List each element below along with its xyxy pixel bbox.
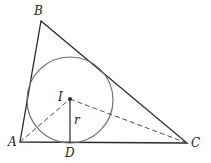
dashed-line-ci <box>70 99 187 143</box>
triangle-abc <box>20 21 187 143</box>
label-b: B <box>33 4 43 18</box>
incenter-point <box>68 97 72 101</box>
label-c: C <box>191 136 200 150</box>
incircle-diagram: B A C D I r <box>0 0 211 163</box>
label-a: A <box>7 135 17 149</box>
label-d: D <box>64 146 75 160</box>
label-i: I <box>57 90 63 104</box>
label-r: r <box>74 113 81 127</box>
